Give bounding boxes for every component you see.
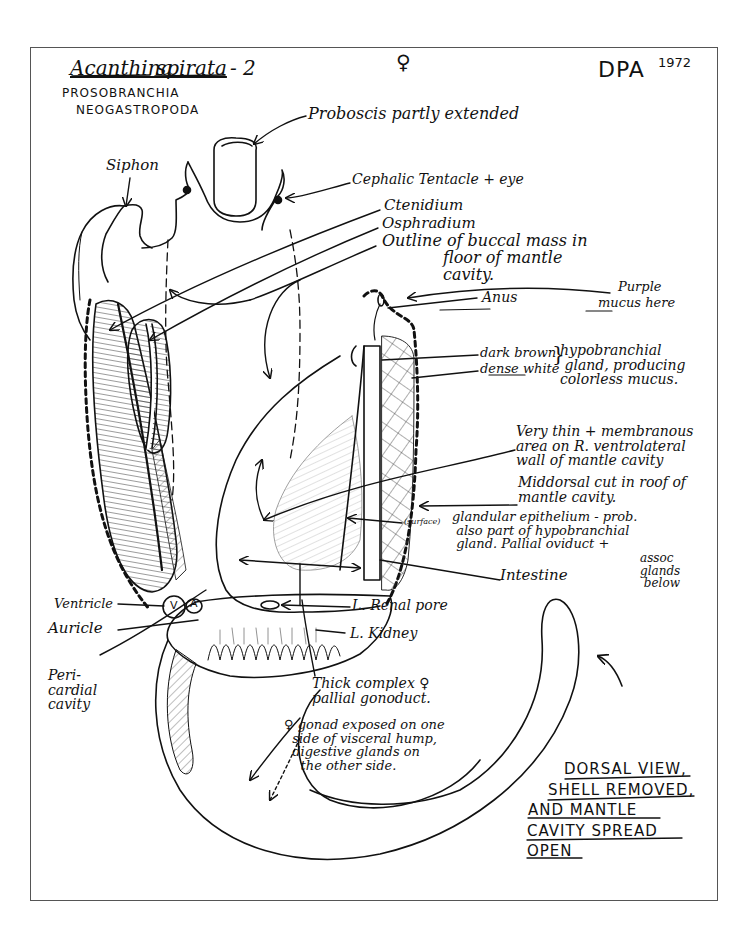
label-gonad: ♀ gonad exposed on one side of visceral … [284,718,445,773]
label-osphradium: Osphradium [382,216,476,232]
left-eye [184,187,191,194]
renal-pore-shape [261,601,279,609]
caption-line-5: OPEN [527,844,573,860]
label-glandular-epithelium: glandular epithelium - prob. also part o… [452,510,638,551]
author-initials: DPA [598,58,645,81]
label-assoc-glands: assoc glands below [640,552,680,590]
year: 1972 [658,56,691,70]
taxonomy-order: PROSOBRANCHIA [62,87,180,100]
right-eye [275,197,282,204]
label-cephalic-tentacle: Cephalic Tentacle + eye [352,172,524,187]
label-anus: Anus [482,290,517,305]
caption-line-1: DORSAL VIEW, [564,762,687,778]
label-dense-white: dense white [480,362,559,376]
label-ctenidium: Ctenidium [384,198,463,214]
label-buccal-outline: Outline of buccal mass in floor of mantl… [382,233,587,283]
caption-line-4: CAVITY SPREAD [527,824,658,840]
label-gonoduct: Thick complex ♀ pallial gonoduct. [312,676,431,705]
title-suffix: - 2 [230,58,256,79]
label-ventricle: Ventricle [54,597,113,611]
label-membranous-area: Very thin + membranous area on R. ventro… [516,424,693,468]
label-intestine: Intestine [500,568,568,584]
label-siphon: Siphon [106,158,159,174]
label-renal-pore: L. Renal pore [352,598,448,613]
label-surface: (surface) [404,518,440,526]
title-species: spirata [156,58,227,79]
proboscis-shape [214,138,256,216]
ventricle-mark: V [170,600,178,612]
caption-line-3: AND MANTLE [528,803,637,819]
label-mucus-here: mucus here [598,296,675,310]
taxonomy-suborder: NEOGASTROPODA [76,104,199,117]
label-proboscis: Proboscis partly extended [308,106,519,123]
label-purple: Purple [618,280,662,294]
caption-line-2: SHELL REMOVED, [548,783,694,799]
label-middorsal-cut: Middorsal cut in roof of mantle cavity. [518,475,686,504]
hypobranchial-gland [382,336,414,590]
intestine-shape [364,346,380,580]
head-outline [188,162,284,230]
label-auricle: Auricle [48,621,103,637]
label-hypobranchial: hypobranchial gland, producing colorless… [560,343,685,387]
label-kidney: L. Kidney [350,626,417,641]
female-symbol: ♀ [396,52,412,73]
auricle-mark: A [190,598,198,610]
label-pericardial-cavity: Peri- cardial cavity [48,668,97,712]
label-dark-brown: dark brown [480,346,556,360]
